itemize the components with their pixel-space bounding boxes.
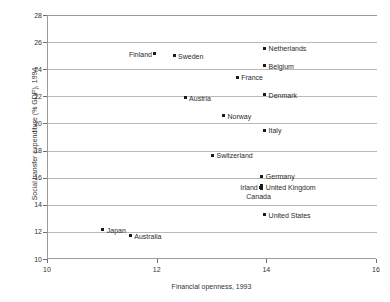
data-point-marker (222, 114, 225, 117)
data-point-label: France (241, 74, 263, 81)
data-point-label: United Kingdom (266, 184, 316, 191)
data-point-label: Denmark (269, 91, 297, 98)
y-axis-tick-label: 22 (22, 93, 42, 100)
data-point-marker (236, 76, 239, 79)
x-axis-tick-mark (376, 259, 377, 263)
gridline (48, 232, 377, 233)
gridline (48, 96, 377, 97)
data-point-marker (263, 47, 266, 50)
data-point-label: Italy (269, 127, 282, 134)
y-axis-tick-label: 26 (22, 39, 42, 46)
x-axis-tick-label: 12 (142, 266, 172, 273)
data-point-label: Sweden (178, 52, 203, 59)
gridline (48, 151, 377, 152)
data-point-label: Irland (240, 184, 258, 191)
y-axis-title: Social transfer expenditure (% GDP), 199… (31, 19, 39, 249)
y-axis-tick-label-wrap: 18 (18, 147, 42, 154)
data-point-label: Australia (134, 232, 161, 239)
y-axis-tick-label-wrap: 10 (18, 256, 42, 263)
x-axis-tick-mark (157, 259, 158, 263)
x-axis-tick-label: 10 (32, 266, 62, 273)
data-point-label: Switzerland (217, 152, 253, 159)
data-point-marker (263, 64, 266, 67)
data-point-label: Austria (189, 94, 211, 101)
y-axis-tick-label-wrap: 20 (18, 120, 42, 127)
data-point-label: Belgium (269, 62, 294, 69)
data-point-marker (129, 234, 132, 237)
data-point-marker (153, 52, 156, 55)
y-axis-tick-label: 14 (22, 201, 42, 208)
data-point-label: Japan (107, 226, 126, 233)
data-point-marker (263, 93, 266, 96)
gridline (48, 205, 377, 206)
x-axis-tick-mark (47, 259, 48, 263)
data-point-marker (263, 213, 266, 216)
y-axis-tick-label: 12 (22, 228, 42, 235)
x-axis-tick-label: 14 (251, 266, 281, 273)
data-point-label: Netherlands (269, 45, 307, 52)
x-axis-tick-mark (266, 259, 267, 263)
y-axis-tick-label: 28 (22, 12, 42, 19)
y-axis-tick-label: 16 (22, 174, 42, 181)
scatter-chart: Social transfer expenditure (% GDP), 199… (0, 0, 390, 302)
y-axis-tick-label-wrap: 24 (18, 66, 42, 73)
gridline (48, 123, 377, 124)
y-axis-tick-label-wrap: 28 (18, 12, 42, 19)
y-axis-tick-label: 24 (22, 66, 42, 73)
y-axis-tick-label: 10 (22, 256, 42, 263)
y-axis-tick-label-wrap: 26 (18, 39, 42, 46)
data-point-marker (260, 184, 263, 190)
data-point-label: United States (269, 211, 311, 218)
gridline (48, 15, 377, 16)
x-axis-title: Financial openness, 1993 (47, 283, 376, 291)
y-axis-tick-label: 18 (22, 147, 42, 154)
data-point-marker (211, 154, 214, 157)
x-axis-tick-label: 16 (361, 266, 390, 273)
data-point-marker (263, 129, 266, 132)
data-point-marker (173, 54, 176, 57)
data-point-label: Germany (266, 173, 295, 180)
data-point-marker (260, 175, 263, 178)
y-axis-tick-label-wrap: 16 (18, 174, 42, 181)
gridline (48, 178, 377, 179)
plot-area: FinlandSwedenNetherlandsBelgiumFranceAus… (47, 15, 376, 259)
data-point-label: Canada (246, 192, 271, 199)
data-point-label: Finland (129, 50, 152, 57)
data-point-marker (101, 228, 104, 231)
y-axis-tick-label-wrap: 14 (18, 201, 42, 208)
data-point-marker (184, 96, 187, 99)
y-axis-tick-label: 20 (22, 120, 42, 127)
gridline (48, 69, 377, 70)
y-axis-tick-label-wrap: 22 (18, 93, 42, 100)
gridline (48, 42, 377, 43)
data-point-label: Norway (227, 112, 251, 119)
y-axis-tick-label-wrap: 12 (18, 228, 42, 235)
